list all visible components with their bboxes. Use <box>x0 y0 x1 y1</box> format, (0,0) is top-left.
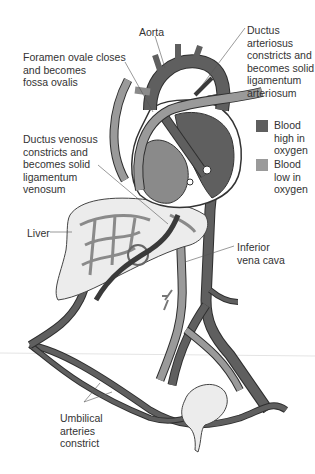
legend-high-oxygen-label: Blood high in oxygen <box>274 119 308 157</box>
label-foramen-ovale: Foramen ovale closes and becomes fossa o… <box>23 51 126 89</box>
label-ductus-venosus: Ductus venosus constricts and becomes so… <box>23 133 98 196</box>
label-aorta: Aorta <box>139 26 164 39</box>
label-ductus-arteriosus: Ductus arteriosus constricts and becomes… <box>247 24 314 99</box>
swatch-low-oxygen <box>256 159 268 171</box>
label-liver: Liver <box>27 227 50 240</box>
umbilical-vein-upper <box>114 80 128 180</box>
label-inferior-vena-cava: Inferior vena cava <box>237 241 285 266</box>
swatch-high-oxygen <box>256 120 268 132</box>
legend-low-oxygen-label: Blood low in oxygen <box>274 158 308 196</box>
legend-low-oxygen: Blood low in oxygen <box>256 158 308 196</box>
label-umbilical-arteries: Umbilical arteries constrict <box>60 412 103 450</box>
legend-high-oxygen: Blood high in oxygen <box>256 119 308 157</box>
heart <box>132 100 242 208</box>
bladder <box>182 384 228 452</box>
ductus-arteriosus-vessel <box>195 78 212 95</box>
